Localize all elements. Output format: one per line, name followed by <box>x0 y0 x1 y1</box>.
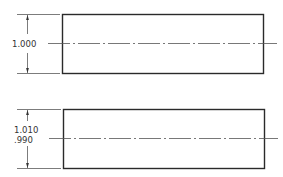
bottom-view: 1.010 .990 <box>14 110 278 169</box>
top-view: 1.000 <box>12 15 277 74</box>
upper-limit-value: 1.010 <box>14 125 38 135</box>
dimension-value: 1.000 <box>12 39 36 49</box>
lower-limit-value: .990 <box>14 135 33 145</box>
drawing-canvas: 1.000 1.010 .990 <box>0 0 283 177</box>
part-outline <box>64 110 265 169</box>
part-outline <box>63 15 264 74</box>
